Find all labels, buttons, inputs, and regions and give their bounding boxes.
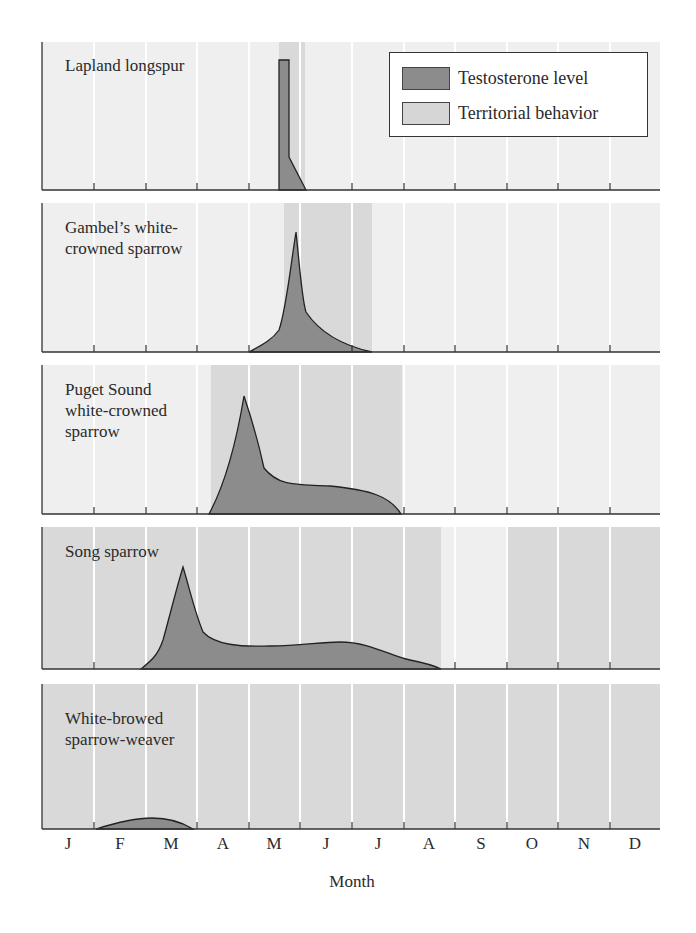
legend-swatch-testosterone	[402, 67, 450, 90]
x-axis-title: Month	[0, 872, 696, 892]
legend-item-testosterone: Testosterone level	[402, 67, 588, 90]
month-label: N	[569, 834, 599, 854]
legend-label: Testosterone level	[458, 68, 588, 89]
panel-label-gambels: Gambel’s white- crowned sparrow	[65, 217, 183, 259]
panel-label-puget-sound: Puget Sound white-crowned sparrow	[65, 379, 167, 442]
legend: Testosterone level Territorial behavior	[389, 52, 648, 137]
month-label: O	[517, 834, 547, 854]
month-label: M	[259, 834, 289, 854]
month-label: J	[311, 834, 341, 854]
month-label: M	[156, 834, 186, 854]
month-label: D	[620, 834, 650, 854]
month-label: A	[208, 834, 238, 854]
legend-item-territorial: Territorial behavior	[402, 102, 598, 125]
panel-label-sparrow-weaver: White-browed sparrow-weaver	[65, 708, 175, 750]
month-label: S	[466, 834, 496, 854]
panel-label-lapland-longspur: Lapland longspur	[65, 55, 184, 76]
legend-swatch-territorial	[402, 102, 450, 125]
panel-label-song-sparrow: Song sparrow	[65, 541, 159, 562]
panel-white-browed-sparrow-weaver	[42, 684, 660, 829]
chart-canvas	[0, 0, 696, 933]
legend-label: Territorial behavior	[458, 103, 598, 124]
month-label: J	[363, 834, 393, 854]
month-label: J	[53, 834, 83, 854]
month-label: F	[105, 834, 135, 854]
non-territorial-gap	[441, 527, 508, 669]
month-label: A	[414, 834, 444, 854]
